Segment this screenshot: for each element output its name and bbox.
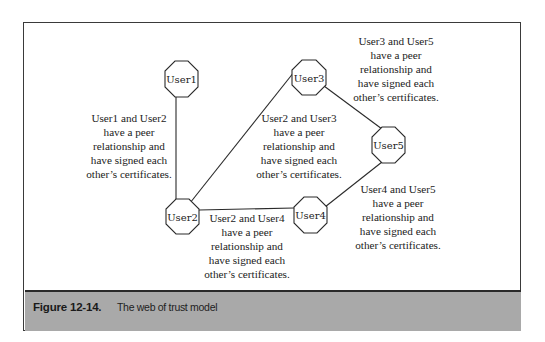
annotation-line: User4 and User5 — [360, 183, 436, 195]
annotation-line: have signed each — [358, 77, 435, 89]
annotation-user2-user4: User2 and User4 have a peer relationship… — [204, 212, 290, 280]
annotation-line: relationship and — [362, 211, 434, 223]
annotation-line: relationship and — [263, 140, 335, 152]
annotation-line: have a peer — [274, 126, 325, 138]
node-label: User3 — [294, 73, 325, 84]
annotation-line: other’s certificates. — [256, 168, 342, 180]
annotation-line: User1 and User2 — [91, 112, 166, 124]
node-user5: User5 — [372, 127, 405, 163]
edges — [176, 67, 382, 210]
annotation-line: relationship and — [360, 63, 432, 75]
annotation-line: User2 and User4 — [209, 212, 285, 224]
annotation-line: relationship and — [211, 240, 283, 252]
node-label: User2 — [167, 212, 198, 223]
figure-title: The web of trust model — [117, 301, 217, 313]
annotation-line: have signed each — [91, 154, 168, 166]
annotation-line: have a peer — [371, 49, 422, 61]
annotation-line: other’s certificates. — [355, 239, 441, 251]
node-user3: User3 — [292, 60, 326, 95]
node-user4: User4 — [294, 197, 327, 233]
figure-caption-bar: Figure 12-14. The web of trust model — [25, 290, 521, 331]
node-label: User4 — [295, 210, 326, 221]
node-user1: User1 — [165, 61, 198, 97]
figure-number: Figure 12-14. — [33, 301, 101, 313]
annotation-line: have signed each — [360, 225, 437, 237]
annotation-line: have signed each — [209, 254, 286, 266]
annotation-user2-user3: User2 and User3 have a peer relationship… — [256, 112, 342, 180]
annotation-line: relationship and — [93, 140, 165, 152]
annotation-user1-user2: User1 and User2 have a peer relationship… — [86, 112, 172, 180]
edge-user2-user4 — [199, 208, 294, 210]
annotation-user3-user5: User3 and User5 have a peer relationship… — [353, 35, 439, 103]
node-user2: User2 — [166, 199, 199, 234]
annotation-line: have signed each — [261, 154, 338, 166]
annotation-line: other’s certificates. — [353, 91, 439, 103]
annotation-line: other’s certificates. — [86, 168, 172, 180]
annotation-line: have a peer — [373, 197, 424, 209]
annotation-user4-user5: User4 and User5 have a peer relationship… — [355, 183, 441, 251]
annotation-line: User3 and User5 — [358, 35, 434, 47]
annotation-line: have a peer — [222, 226, 273, 238]
node-label: User1 — [166, 74, 197, 85]
annotation-line: have a peer — [104, 126, 155, 138]
annotation-line: other’s certificates. — [204, 268, 290, 280]
node-label: User5 — [373, 140, 404, 151]
annotation-line: User2 and User3 — [261, 112, 337, 124]
